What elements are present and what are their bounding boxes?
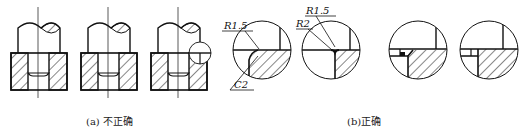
- label-c2: C2: [234, 79, 248, 90]
- assembly-view-a3: [151, 7, 211, 98]
- detail-view-b4: [455, 20, 519, 90]
- label-r1-5-b2: R1.5: [305, 5, 329, 16]
- caption-a: (a) 不正确: [86, 113, 133, 128]
- assembly-view-a2: [81, 7, 137, 98]
- assembly-view-a1: [11, 7, 67, 98]
- diagram-canvas: R1.5 C2 R1.5 R2: [0, 0, 519, 137]
- label-r2: R2: [295, 18, 310, 29]
- caption-b: (b)正确: [347, 113, 381, 128]
- detail-view-b3: [385, 20, 450, 90]
- label-r1-5-b1: R1.5: [223, 20, 247, 31]
